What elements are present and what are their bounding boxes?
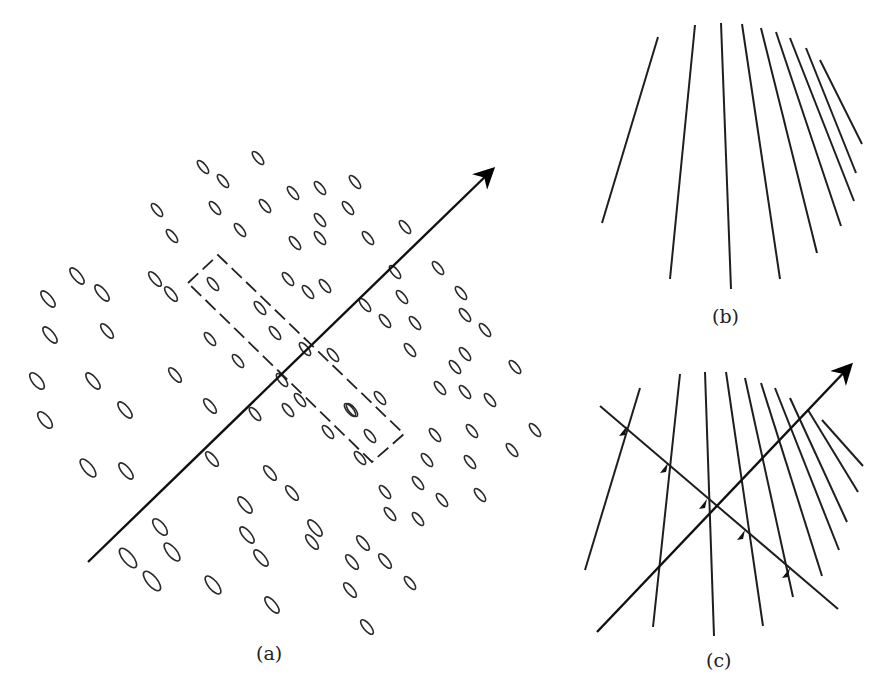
ellipse bbox=[287, 235, 302, 251]
ellipse bbox=[263, 595, 282, 615]
ellipse bbox=[232, 222, 247, 238]
ellipse bbox=[236, 495, 255, 515]
ellipse bbox=[377, 484, 392, 500]
ellipse bbox=[202, 331, 217, 347]
ellipse bbox=[250, 150, 265, 166]
fan-line bbox=[602, 37, 658, 223]
ellipse bbox=[280, 271, 295, 287]
ellipse bbox=[360, 230, 375, 246]
ellipse bbox=[382, 506, 397, 522]
ellipse bbox=[464, 423, 479, 439]
ellipse bbox=[147, 270, 164, 288]
ellipse bbox=[150, 516, 170, 537]
ellipse bbox=[116, 546, 139, 571]
ellipse bbox=[312, 230, 327, 246]
ellipse bbox=[320, 424, 335, 440]
panel-a-label: (a) bbox=[256, 642, 282, 664]
ellipse bbox=[355, 534, 372, 552]
fan-line bbox=[761, 28, 817, 253]
ellipse bbox=[377, 313, 392, 329]
ellipse bbox=[149, 202, 164, 218]
arrow-tick-icon bbox=[737, 530, 745, 540]
ellipse bbox=[205, 276, 220, 292]
ellipse bbox=[402, 575, 417, 591]
fan-line bbox=[742, 24, 780, 279]
ellipse bbox=[215, 173, 230, 189]
ellipse bbox=[482, 392, 497, 408]
ellipse bbox=[93, 283, 112, 303]
ellipse bbox=[39, 289, 58, 309]
panel-c-label: (c) bbox=[706, 649, 731, 671]
ellipse bbox=[35, 409, 55, 430]
ellipse bbox=[312, 212, 327, 228]
ellipse bbox=[362, 428, 377, 444]
ellipse bbox=[252, 300, 267, 316]
ellipse bbox=[457, 307, 472, 323]
ellipse bbox=[342, 581, 359, 599]
ellipse bbox=[252, 548, 271, 568]
ellipse bbox=[204, 450, 221, 468]
ellipse bbox=[359, 618, 376, 636]
fan-line bbox=[585, 388, 640, 570]
ellipse bbox=[504, 442, 519, 458]
ellipse bbox=[372, 390, 387, 406]
ellipse bbox=[167, 366, 184, 384]
ellipse bbox=[68, 266, 87, 286]
ellipse bbox=[457, 346, 472, 362]
ellipse bbox=[397, 219, 412, 235]
ellipse bbox=[27, 370, 47, 391]
ellipse bbox=[195, 159, 210, 175]
ellipse bbox=[300, 284, 315, 300]
ellipse bbox=[419, 452, 434, 468]
ellipse bbox=[312, 180, 327, 196]
ellipse bbox=[340, 200, 355, 216]
ellipse bbox=[285, 185, 300, 201]
ellipse bbox=[472, 487, 487, 503]
fan-line bbox=[806, 48, 856, 173]
ellipse bbox=[257, 198, 272, 214]
ellipse bbox=[352, 450, 367, 466]
ellipse bbox=[41, 325, 60, 345]
fan-line bbox=[670, 25, 695, 279]
fan-line bbox=[726, 372, 763, 626]
ellipse bbox=[163, 285, 180, 303]
figure-canvas: (a) (b) (c) bbox=[0, 0, 882, 686]
ellipse bbox=[457, 384, 472, 400]
ellipse bbox=[402, 342, 417, 358]
ellipse bbox=[161, 541, 182, 564]
ellipse bbox=[99, 322, 116, 340]
panel-b-label: (b) bbox=[712, 305, 739, 327]
ellipse bbox=[410, 511, 425, 527]
ellipse bbox=[164, 228, 179, 244]
ellipse bbox=[477, 322, 492, 338]
ellipse bbox=[84, 371, 103, 391]
ellipse bbox=[292, 392, 307, 408]
ellipse bbox=[77, 457, 98, 480]
ellipse bbox=[317, 278, 332, 294]
ellipse bbox=[430, 260, 445, 276]
axis-arrow bbox=[88, 170, 492, 562]
line-fan bbox=[585, 372, 863, 636]
ellipse bbox=[238, 525, 257, 545]
ellipse bbox=[447, 359, 462, 375]
ellipse-field bbox=[27, 150, 542, 636]
fan-line bbox=[761, 383, 822, 576]
ellipse bbox=[427, 427, 442, 443]
ellipse bbox=[207, 200, 222, 216]
ellipse bbox=[387, 264, 402, 280]
panel-c: (c) bbox=[585, 366, 863, 671]
ellipse bbox=[117, 461, 136, 481]
ellipse bbox=[280, 402, 295, 418]
arrow-tick-icon bbox=[660, 463, 668, 473]
ellipse bbox=[344, 553, 361, 571]
ellipse bbox=[230, 353, 245, 369]
arrow-tick-icon bbox=[699, 499, 707, 509]
fan-line bbox=[653, 374, 680, 627]
tick-marks bbox=[619, 426, 790, 578]
ellipse bbox=[347, 174, 362, 190]
ellipse bbox=[116, 400, 135, 420]
ellipse bbox=[410, 475, 425, 491]
fan-line bbox=[721, 23, 731, 289]
ellipse bbox=[507, 359, 522, 375]
ellipse bbox=[434, 492, 449, 508]
